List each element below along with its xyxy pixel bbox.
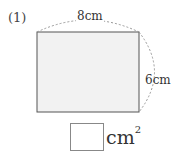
width-label: 8cm [76,9,104,23]
answer-unit: cm2 [106,126,141,148]
height-label: 6cm [145,73,171,87]
height-dashed-arc [139,32,155,112]
unit-text: cm [106,126,135,148]
answer-box[interactable] [70,123,104,151]
rectangle-shape [37,32,139,112]
unit-exponent: 2 [135,124,141,135]
